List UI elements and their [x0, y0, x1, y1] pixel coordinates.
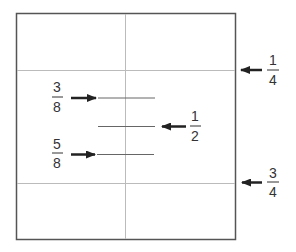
numerator: 5 [53, 136, 61, 152]
fraction-diagram: 3 8 5 8 1 2 1 4 3 4 [0, 0, 296, 252]
denominator: 8 [53, 155, 61, 171]
denominator: 4 [269, 184, 277, 200]
numerator: 3 [53, 79, 61, 95]
denominator: 2 [191, 128, 199, 144]
label-quarter: 1 4 [241, 52, 279, 88]
denominator: 4 [269, 72, 277, 88]
label-three-quarters: 3 4 [242, 165, 279, 200]
numerator: 1 [191, 108, 199, 124]
numerator: 1 [269, 52, 277, 68]
denominator: 8 [53, 99, 61, 115]
numerator: 3 [269, 165, 277, 181]
